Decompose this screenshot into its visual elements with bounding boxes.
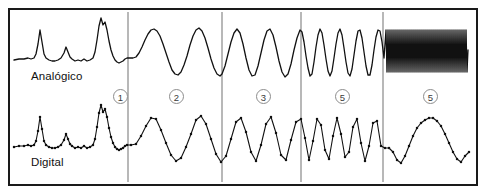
sample-dot — [312, 140, 315, 143]
sample-dot — [180, 157, 183, 160]
sample-dot — [255, 160, 258, 163]
sample-dot — [320, 124, 323, 127]
sample-dot — [344, 156, 347, 159]
sample-dot — [210, 138, 213, 141]
sample-dot — [364, 160, 367, 163]
sample-dot — [63, 139, 66, 142]
sample-dot — [27, 144, 30, 147]
sample-dot — [83, 145, 86, 148]
sample-dot — [41, 128, 44, 131]
digital-waveform-line — [14, 105, 469, 163]
sample-dot — [112, 142, 115, 145]
sample-dot — [89, 146, 92, 149]
sample-dot — [135, 143, 138, 146]
sample-dot — [220, 161, 223, 164]
sample-dot — [270, 116, 273, 119]
sample-dot — [110, 136, 113, 139]
sample-dot — [165, 142, 168, 145]
sample-dot — [96, 126, 99, 129]
sample-dot — [265, 123, 268, 126]
sample-dot — [392, 151, 395, 154]
sample-dot — [114, 146, 117, 149]
sample-dot — [352, 126, 355, 129]
sample-dot — [43, 140, 46, 143]
sample-dot — [102, 111, 105, 114]
sample-dot — [175, 160, 178, 163]
sample-dot — [104, 108, 107, 111]
sample-dot — [360, 142, 363, 145]
sample-dot — [18, 145, 21, 148]
sample-dot — [94, 138, 97, 141]
analog-row-label: Analógico — [31, 70, 82, 82]
sample-dot — [424, 119, 427, 122]
sample-dot — [57, 146, 60, 149]
sample-dot — [23, 145, 26, 148]
sample-dot — [30, 145, 33, 148]
sample-dot — [200, 115, 203, 118]
analog-waveform-line — [14, 18, 468, 77]
sample-dot — [316, 118, 319, 121]
sample-dot — [215, 153, 218, 156]
sample-dot — [150, 117, 153, 120]
sample-dot — [324, 149, 327, 152]
digital-waveform — [13, 104, 471, 165]
sample-dot — [348, 151, 351, 154]
sample-dot — [432, 117, 435, 120]
sample-dot — [290, 139, 293, 142]
sample-dot — [145, 125, 148, 128]
sample-dot — [416, 127, 419, 130]
sample-dot — [235, 121, 238, 124]
analog-waveform — [14, 18, 468, 77]
sample-dot — [77, 146, 80, 149]
sample-dot — [122, 147, 125, 150]
sample-dot — [106, 116, 109, 119]
section-marker-5: 5 — [423, 89, 438, 104]
sample-dot — [140, 135, 143, 138]
sample-dot — [230, 138, 233, 141]
sample-dot — [69, 143, 72, 146]
sample-dot — [13, 146, 16, 149]
sample-dot — [456, 158, 459, 161]
sample-dot — [420, 122, 423, 125]
sample-dot — [452, 151, 455, 154]
sample-dot — [380, 145, 383, 148]
sample-dot — [388, 147, 391, 150]
sample-dot — [71, 145, 74, 148]
sample-dot — [74, 147, 77, 150]
sample-dot — [195, 119, 198, 122]
sample-dot — [35, 140, 38, 143]
digital-row-label: Digital — [31, 156, 64, 168]
section-marker-3: 3 — [256, 89, 271, 104]
sample-dot — [340, 133, 343, 136]
sample-dot — [285, 159, 288, 162]
sample-dot — [408, 145, 411, 148]
sample-dot — [39, 116, 42, 119]
sample-dot — [436, 120, 439, 123]
sample-dot — [356, 118, 359, 121]
sample-dot — [468, 151, 471, 154]
sample-dot — [67, 138, 70, 141]
sample-dot — [460, 161, 463, 164]
sample-dot — [225, 155, 228, 158]
sample-dot — [428, 117, 431, 120]
sample-dot — [160, 129, 163, 132]
sample-dot — [54, 147, 57, 150]
sample-dot — [328, 158, 331, 161]
sample-dot — [100, 104, 103, 107]
sample-dot — [190, 133, 193, 136]
sample-dot — [275, 132, 278, 135]
sample-dot — [376, 120, 379, 123]
sample-dot — [51, 147, 54, 150]
sample-dot — [412, 135, 415, 138]
sample-dot — [37, 130, 40, 133]
section-marker-4: 5 — [335, 89, 350, 104]
sample-dot — [336, 117, 339, 120]
sample-dot — [464, 155, 467, 158]
sample-dot — [300, 118, 303, 121]
sample-dot — [308, 159, 311, 162]
sample-dot — [33, 144, 36, 147]
sample-dot — [98, 112, 101, 115]
sample-dot — [170, 154, 173, 157]
sample-dot — [92, 144, 95, 147]
sample-dot — [295, 121, 298, 124]
